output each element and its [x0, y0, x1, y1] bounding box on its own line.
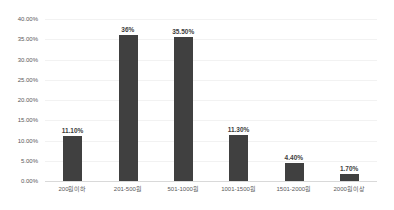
bar-value-label: 35.50% — [156, 28, 211, 35]
bar — [119, 35, 138, 181]
bar — [174, 37, 193, 181]
plot-area: 11.10%36%35.50%11.30%4.40%1.70% — [45, 18, 377, 182]
x-axis-category-label: 2000원이상 — [322, 186, 377, 193]
y-axis-tick-label: 10.00% — [0, 138, 38, 144]
y-axis-tick-label: 20.00% — [0, 97, 38, 103]
x-axis-category-label: 201-500원 — [100, 186, 155, 193]
gridline — [45, 60, 377, 61]
gridline — [45, 80, 377, 81]
gridline — [45, 161, 377, 162]
bar — [229, 135, 248, 181]
bar — [63, 136, 82, 181]
bar-value-label: 1.70% — [322, 165, 377, 172]
y-axis-tick-label: 25.00% — [0, 77, 38, 83]
x-axis-category-label: 501-1000원 — [156, 186, 211, 193]
y-axis-tick-label: 0.00% — [0, 178, 38, 184]
bar-value-label: 4.40% — [266, 154, 321, 161]
y-axis-tick-label: 35.00% — [0, 36, 38, 42]
y-axis-tick-label: 40.00% — [0, 16, 38, 22]
gridline — [45, 19, 377, 20]
y-axis-tick-label: 15.00% — [0, 117, 38, 123]
gridline — [45, 141, 377, 142]
gridline — [45, 120, 377, 121]
bar-value-label: 36% — [100, 26, 155, 33]
bar-chart: 11.10%36%35.50%11.30%4.40%1.70% 0.00%5.0… — [0, 0, 394, 210]
bar — [285, 163, 304, 181]
x-axis-line — [45, 181, 377, 182]
bar-value-label: 11.30% — [211, 126, 266, 133]
y-axis-tick-label: 30.00% — [0, 57, 38, 63]
gridline — [45, 39, 377, 40]
gridline — [45, 100, 377, 101]
x-axis-category-label: 200원이하 — [45, 186, 100, 193]
bar — [340, 174, 359, 181]
x-axis-category-label: 1001-1500원 — [211, 186, 266, 193]
x-axis-category-label: 1501-2000원 — [266, 186, 321, 193]
bar-value-label: 11.10% — [45, 127, 100, 134]
y-axis-tick-label: 5.00% — [0, 158, 38, 164]
